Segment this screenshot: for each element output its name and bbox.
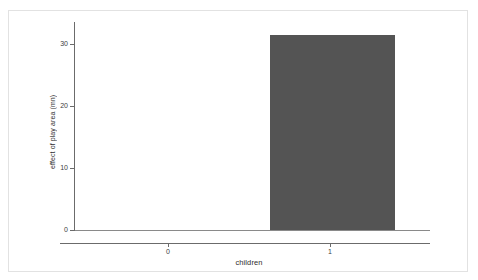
plot-area: 30 20 10 0 0 1 effect of play area (mn) … [0,0,478,280]
y-tick-30 [70,44,75,45]
zero-baseline [74,230,430,231]
y-tick-label-0: 0 [50,226,68,233]
y-axis-title: effect of play area (mn) [46,72,60,192]
y-axis-line [74,22,75,231]
x-tick-0 [168,243,169,247]
y-tick-label-30: 30 [50,40,68,47]
y-tick-20 [70,106,75,107]
x-tick-label-1: 1 [315,248,345,255]
x-axis-line [60,243,430,244]
y-tick-10 [70,168,75,169]
x-tick-1 [330,243,331,247]
x-axis-title: children [139,258,359,267]
chart-figure: 30 20 10 0 0 1 effect of play area (mn) … [0,0,478,280]
x-tick-label-0: 0 [153,248,183,255]
bar-children-1 [270,35,395,230]
y-tick-0 [70,230,75,231]
